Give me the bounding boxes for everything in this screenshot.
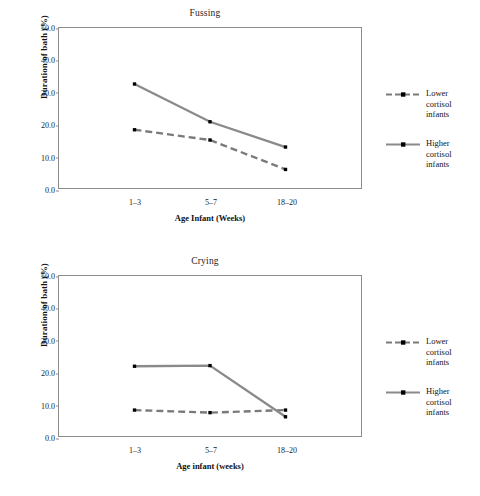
data-point-marker xyxy=(133,128,136,131)
y-tick-mark xyxy=(56,308,59,309)
data-point-marker xyxy=(284,415,287,418)
data-point-marker xyxy=(208,364,211,367)
legend-swatch-solid-icon xyxy=(386,141,420,148)
x-tick-label: 18–20 xyxy=(277,198,297,207)
y-tick-label: 0.0 xyxy=(45,186,59,195)
y-tick-label: 20.0 xyxy=(41,121,59,130)
y-tick-label: 40.0 xyxy=(41,304,59,313)
legend-swatch-dashed-icon xyxy=(386,339,420,346)
y-tick-mark xyxy=(56,60,59,61)
x-tick-label: 5–7 xyxy=(205,198,217,207)
y-tick-mark xyxy=(56,28,59,29)
legend-label-higher-cortisol: Higher cortisol infants xyxy=(426,138,480,170)
y-tick-mark xyxy=(56,93,59,94)
x-tick-label: 5–7 xyxy=(205,446,217,455)
legend-label-lower-cortisol: Lower cortisol infants xyxy=(426,336,480,368)
y-tick-mark xyxy=(56,341,59,342)
y-tick-mark xyxy=(56,190,59,191)
y-tick-label: 30.0 xyxy=(41,336,59,345)
series-higher-cortisol xyxy=(133,364,287,419)
data-point-marker xyxy=(133,408,136,411)
legend-entry-higher-cortisol: Higher cortisol infants xyxy=(386,386,480,420)
legend-swatch-dashed-icon xyxy=(386,91,420,98)
series-layer-fussing xyxy=(59,28,361,188)
figure-two-panel-line-chart: Fussing Duration of bath (%) 0.010.020.0… xyxy=(0,0,480,496)
x-tick-label: 1–3 xyxy=(129,446,141,455)
y-tick-label: 20.0 xyxy=(41,369,59,378)
data-point-marker xyxy=(208,120,211,123)
x-axis-title-crying: Age infant (weeks) xyxy=(58,461,362,471)
plot-area-crying: 0.010.020.030.040.050.01–35–718–20 xyxy=(58,275,362,437)
data-point-marker xyxy=(208,138,211,141)
y-tick-mark xyxy=(56,276,59,277)
y-tick-label: 50.0 xyxy=(41,24,59,33)
legend-label-lower-cortisol: Lower cortisol infants xyxy=(426,88,480,120)
data-point-marker xyxy=(208,411,211,414)
series-lower-cortisol xyxy=(133,408,287,414)
legend-fussing: Lower cortisol infants Higher cortisol i… xyxy=(386,88,480,188)
y-tick-mark xyxy=(56,158,59,159)
series-line xyxy=(135,366,286,417)
y-tick-label: 10.0 xyxy=(41,153,59,162)
panel-title-crying: Crying xyxy=(60,256,350,266)
y-tick-label: 30.0 xyxy=(41,88,59,97)
y-tick-mark xyxy=(56,406,59,407)
series-lower-cortisol xyxy=(133,128,287,171)
y-tick-label: 50.0 xyxy=(41,272,59,281)
x-tick-label: 1–3 xyxy=(129,198,141,207)
data-point-marker xyxy=(284,145,287,148)
series-line xyxy=(135,84,286,147)
legend-label-higher-cortisol: Higher cortisol infants xyxy=(426,386,480,418)
x-tick-label: 18–20 xyxy=(277,446,297,455)
legend-entry-lower-cortisol: Lower cortisol infants xyxy=(386,336,480,370)
data-point-marker xyxy=(133,82,136,85)
data-point-marker xyxy=(133,365,136,368)
legend-swatch-solid-icon xyxy=(386,389,420,396)
x-axis-title-fussing: Age Infant (Weeks) xyxy=(58,213,362,223)
y-tick-mark xyxy=(56,438,59,439)
legend-entry-higher-cortisol: Higher cortisol infants xyxy=(386,138,480,172)
y-tick-label: 0.0 xyxy=(45,434,59,443)
series-line xyxy=(135,130,286,170)
data-point-marker xyxy=(284,168,287,171)
y-tick-mark xyxy=(56,373,59,374)
legend-entry-lower-cortisol: Lower cortisol infants xyxy=(386,88,480,122)
data-point-marker xyxy=(284,408,287,411)
legend-crying: Lower cortisol infants Higher cortisol i… xyxy=(386,336,480,436)
series-layer-crying xyxy=(59,276,361,436)
y-tick-label: 10.0 xyxy=(41,401,59,410)
panel-title-fussing: Fussing xyxy=(60,8,350,18)
y-tick-label: 40.0 xyxy=(41,56,59,65)
y-tick-mark xyxy=(56,125,59,126)
plot-area-fussing: 0.010.020.030.040.050.01–35–718–20 xyxy=(58,27,362,189)
